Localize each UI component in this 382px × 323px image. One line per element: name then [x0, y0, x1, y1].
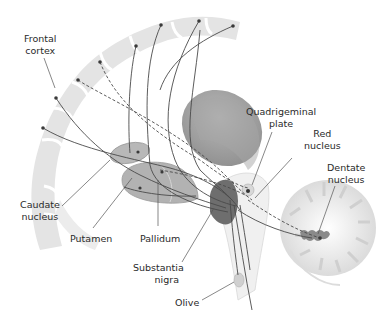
label-quadrigeminal-plate-line1: Quadrigeminal	[246, 106, 316, 118]
label-olive-text: Olive	[175, 297, 199, 309]
olive	[234, 273, 244, 287]
label-substantia-nigra: Substantia nigra	[133, 262, 179, 286]
extrapyramidal-pathways-diagram: Frontal cortex Caudate nucleus Putamen P…	[0, 0, 382, 323]
label-red-nucleus-line2: nucleus	[304, 140, 341, 152]
label-red-nucleus: Red nucleus	[304, 128, 341, 152]
label-putamen: Putamen	[70, 233, 112, 245]
label-frontal-cortex-line1: Frontal	[24, 33, 57, 45]
label-dentate-nucleus-line1: Dentate	[327, 162, 365, 174]
label-frontal-cortex-line2: cortex	[24, 45, 57, 57]
label-quadrigeminal-plate: Quadrigeminal plate	[246, 106, 316, 130]
label-dentate-nucleus-line2: nucleus	[327, 174, 365, 186]
label-dentate-nucleus: Dentate nucleus	[327, 162, 365, 186]
diagram-artwork	[0, 0, 382, 323]
label-substantia-nigra-line1: Substantia	[133, 262, 179, 274]
label-caudate-nucleus-line1: Caudate	[20, 199, 60, 211]
label-caudate-nucleus-line2: nucleus	[20, 211, 60, 223]
label-red-nucleus-line1: Red	[304, 128, 341, 140]
label-putamen-text: Putamen	[70, 233, 112, 245]
label-olive: Olive	[175, 297, 199, 309]
label-pallidum-text: Pallidum	[140, 233, 180, 245]
label-frontal-cortex: Frontal cortex	[24, 33, 57, 57]
label-caudate-nucleus: Caudate nucleus	[20, 199, 60, 223]
label-substantia-nigra-line2: nigra	[133, 274, 179, 286]
label-pallidum: Pallidum	[140, 233, 180, 245]
